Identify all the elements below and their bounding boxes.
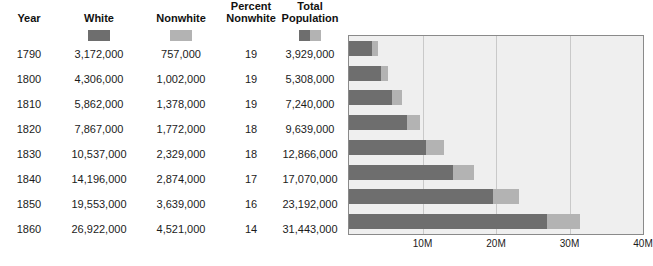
chart-bar-segment-white — [349, 90, 392, 105]
legend-swatch-row — [0, 26, 340, 42]
cell-year: 1860 — [0, 217, 58, 242]
legend-swatch-total-population — [299, 30, 321, 41]
chart-bar-1840 — [349, 165, 643, 180]
cell-nonwhite: 4,521,000 — [140, 217, 222, 242]
column-header-percent-nonwhite-line-1: Percent — [222, 0, 280, 12]
cell-percent-nonwhite: 16 — [222, 192, 280, 217]
cell-year: 1830 — [0, 142, 58, 167]
table-row: 184014,196,0002,874,0001717,070,000 — [0, 167, 340, 192]
cell-total-population: 3,929,000 — [280, 42, 340, 67]
column-header-total-population: Total Population — [280, 0, 340, 26]
column-header-white: White — [58, 0, 140, 26]
cell-year: 1840 — [0, 167, 58, 192]
cell-white: 7,867,000 — [58, 117, 140, 142]
chart-plot-area — [348, 35, 644, 235]
column-header-white-line-1: White — [58, 12, 140, 24]
table-row: 185019,553,0003,639,0001623,192,000 — [0, 192, 340, 217]
column-header-year-line-1: Year — [0, 12, 58, 24]
chart-bar-segment-nonwhite — [493, 189, 520, 204]
table-row: 17903,172,000757,000193,929,000 — [0, 42, 340, 67]
chart-bar-1820 — [349, 115, 643, 130]
cell-nonwhite: 2,329,000 — [140, 142, 222, 167]
column-header-nonwhite-line-1: Nonwhite — [140, 12, 222, 24]
chart-bar-segment-white — [349, 140, 426, 155]
chart-bar-segment-white — [349, 189, 493, 204]
chart-bar-segment-white — [349, 41, 372, 56]
chart-bar-1830 — [349, 140, 643, 155]
legend-swatch-white — [88, 30, 110, 41]
cell-white: 3,172,000 — [58, 42, 140, 67]
cell-total-population: 5,308,000 — [280, 67, 340, 92]
swatch-cell-percent-nonwhite — [222, 26, 280, 42]
table-header: Year White Nonwhite Percent Nonwhite Tot… — [0, 0, 340, 42]
chart-bar-segment-nonwhite — [453, 165, 474, 180]
cell-white: 5,862,000 — [58, 92, 140, 117]
legend-swatch-nonwhite — [170, 30, 192, 41]
cell-year: 1850 — [0, 192, 58, 217]
cell-total-population: 7,240,000 — [280, 92, 340, 117]
swatch-cell-year — [0, 26, 58, 42]
swatch-cell-white — [58, 26, 140, 42]
column-header-year: Year — [0, 0, 58, 26]
cell-year: 1790 — [0, 42, 58, 67]
cell-white: 10,537,000 — [58, 142, 140, 167]
cell-year: 1800 — [0, 67, 58, 92]
cell-white: 19,553,000 — [58, 192, 140, 217]
cell-percent-nonwhite: 18 — [222, 117, 280, 142]
x-axis-tick-label: 10M — [413, 238, 432, 249]
chart-bar-segment-nonwhite — [372, 41, 378, 56]
cell-year: 1810 — [0, 92, 58, 117]
cell-white: 26,922,000 — [58, 217, 140, 242]
table-body: 17903,172,000757,000193,929,00018004,306… — [0, 42, 340, 242]
x-axis-tick-label: 30M — [560, 238, 579, 249]
cell-nonwhite: 2,874,000 — [140, 167, 222, 192]
table-row: 18207,867,0001,772,000189,639,000 — [0, 117, 340, 142]
chart-bar-segment-nonwhite — [392, 90, 402, 105]
chart-bar-1810 — [349, 90, 643, 105]
swatch-cell-nonwhite — [140, 26, 222, 42]
cell-percent-nonwhite: 19 — [222, 67, 280, 92]
cell-total-population: 31,443,000 — [280, 217, 340, 242]
cell-total-population: 12,866,000 — [280, 142, 340, 167]
cell-white: 4,306,000 — [58, 67, 140, 92]
column-header-percent-nonwhite: Percent Nonwhite — [222, 0, 280, 26]
cell-percent-nonwhite: 17 — [222, 167, 280, 192]
column-header-total-population-line-2: Population — [280, 12, 340, 24]
chart-bar-segment-nonwhite — [547, 214, 580, 229]
column-header-percent-nonwhite-line-2: Nonwhite — [222, 12, 280, 24]
cell-year: 1820 — [0, 117, 58, 142]
cell-nonwhite: 1,378,000 — [140, 92, 222, 117]
swatch-cell-total-population — [280, 26, 340, 42]
cell-total-population: 23,192,000 — [280, 192, 340, 217]
cell-percent-nonwhite: 19 — [222, 42, 280, 67]
table-header-row: Year White Nonwhite Percent Nonwhite Tot… — [0, 0, 340, 26]
table-row: 183010,537,0002,329,0001812,866,000 — [0, 142, 340, 167]
data-table-panel: Year White Nonwhite Percent Nonwhite Tot… — [0, 0, 340, 266]
chart-bar-segment-white — [349, 214, 547, 229]
table-row: 18004,306,0001,002,000195,308,000 — [0, 67, 340, 92]
x-axis-tick-label: 20M — [486, 238, 505, 249]
chart-bar-segment-nonwhite — [426, 140, 443, 155]
cell-nonwhite: 1,772,000 — [140, 117, 222, 142]
cell-total-population: 17,070,000 — [280, 167, 340, 192]
cell-total-population: 9,639,000 — [280, 117, 340, 142]
chart-bar-segment-white — [349, 115, 407, 130]
chart-bar-1790 — [349, 41, 643, 56]
chart-bar-segment-nonwhite — [381, 66, 388, 81]
population-table: Year White Nonwhite Percent Nonwhite Tot… — [0, 0, 340, 242]
chart-bar-1850 — [349, 189, 643, 204]
column-header-total-population-line-1: Total — [280, 0, 340, 12]
x-axis-tick-label: 40M — [633, 238, 652, 249]
chart-bar-segment-nonwhite — [407, 115, 420, 130]
chart-bar-1800 — [349, 66, 643, 81]
column-header-nonwhite: Nonwhite — [140, 0, 222, 26]
chart-bar-segment-white — [349, 66, 381, 81]
chart-bar-segment-white — [349, 165, 453, 180]
cell-nonwhite: 757,000 — [140, 42, 222, 67]
cell-nonwhite: 3,639,000 — [140, 192, 222, 217]
cell-percent-nonwhite: 18 — [222, 142, 280, 167]
table-row: 186026,922,0004,521,0001431,443,000 — [0, 217, 340, 242]
cell-percent-nonwhite: 19 — [222, 92, 280, 117]
table-row: 18105,862,0001,378,000197,240,000 — [0, 92, 340, 117]
